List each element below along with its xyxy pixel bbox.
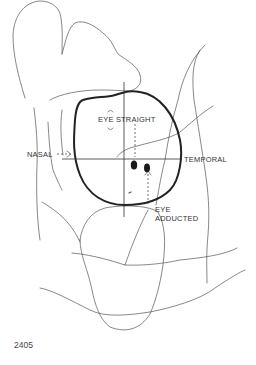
figure-number: 2405 — [14, 340, 33, 350]
label-eye-adducted-2: ADDUCTED — [155, 214, 199, 223]
pupil-straight — [131, 160, 137, 169]
label-eye-straight: EYE STRAIGHT — [98, 115, 156, 124]
anatomical-diagram: EYE STRAIGHT NASAL TEMPORAL EYE ADDUCTED… — [0, 0, 256, 365]
small-mark — [129, 192, 131, 193]
temporal-contours — [72, 45, 237, 283]
upper-outline — [13, 1, 141, 100]
bracket-bottom-icon — [108, 128, 113, 130]
bracket-top-icon — [108, 111, 113, 113]
lower-diagonal — [125, 210, 148, 265]
label-nasal: NASAL — [27, 150, 53, 159]
nasal-contours — [34, 108, 245, 315]
pupil-adducted — [144, 164, 150, 173]
label-temporal: TEMPORAL — [184, 155, 227, 164]
label-eye-adducted-1: EYE — [155, 205, 171, 214]
eye-outline — [74, 91, 181, 205]
